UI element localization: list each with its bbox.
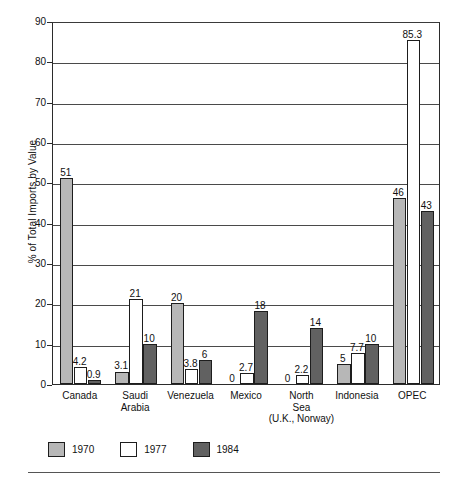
bar bbox=[88, 380, 102, 384]
y-axis-tick-label: 0 bbox=[18, 380, 46, 390]
bar-value-label: 2.7 bbox=[232, 362, 260, 373]
bar-value-label: 10 bbox=[135, 333, 163, 344]
legend-swatch-1984 bbox=[193, 442, 210, 457]
legend: 1970 1977 1984 bbox=[48, 442, 239, 457]
bar-value-label: 2.2 bbox=[288, 364, 316, 375]
bar-value-label: 6 bbox=[191, 349, 219, 360]
gridline bbox=[53, 225, 439, 226]
bar bbox=[254, 311, 268, 384]
bar-value-label: 20 bbox=[163, 292, 191, 303]
gridline bbox=[53, 63, 439, 64]
bar-value-label: 0.9 bbox=[80, 369, 108, 380]
bottom-divider bbox=[28, 472, 440, 473]
legend-item: 1977 bbox=[120, 442, 166, 457]
legend-label-1977: 1977 bbox=[144, 444, 166, 455]
bar-value-label: 18 bbox=[246, 300, 274, 311]
legend-swatch-1970 bbox=[48, 442, 65, 457]
y-axis-tick-label: 20 bbox=[18, 299, 46, 309]
bar bbox=[171, 303, 185, 384]
bar bbox=[115, 372, 129, 385]
bar-value-label: 0 bbox=[218, 373, 246, 384]
legend-item: 1970 bbox=[48, 442, 94, 457]
gridline bbox=[53, 184, 439, 185]
bar-value-label: 85.3 bbox=[399, 29, 427, 40]
bar bbox=[310, 328, 324, 384]
bar bbox=[393, 198, 407, 384]
bar bbox=[185, 369, 199, 384]
bar-value-label: 4.2 bbox=[66, 356, 94, 367]
y-axis-tick-label: 30 bbox=[18, 259, 46, 269]
bar bbox=[421, 211, 435, 384]
y-axis-tick-label: 90 bbox=[18, 17, 46, 27]
bar bbox=[60, 178, 74, 384]
gridline bbox=[53, 265, 439, 266]
x-axis-category-label: OPEC bbox=[371, 390, 454, 402]
y-axis-tick-label: 80 bbox=[18, 57, 46, 67]
legend-label-1970: 1970 bbox=[72, 444, 94, 455]
bar-value-label: 43 bbox=[413, 200, 441, 211]
bar bbox=[407, 40, 421, 384]
y-axis-tick-label: 10 bbox=[18, 340, 46, 350]
legend-swatch-1977 bbox=[120, 442, 137, 457]
bar bbox=[337, 364, 351, 384]
bar-chart-figure: % of Total Imports by Value 010203040506… bbox=[0, 0, 468, 484]
bar-value-label: 14 bbox=[302, 317, 330, 328]
plot-area bbox=[52, 22, 440, 385]
gridline bbox=[53, 144, 439, 145]
bar-value-label: 3.1 bbox=[107, 360, 135, 371]
y-axis-tick-mark bbox=[47, 385, 52, 386]
legend-label-1984: 1984 bbox=[217, 444, 239, 455]
y-axis-tick-label: 70 bbox=[18, 98, 46, 108]
gridline bbox=[53, 104, 439, 105]
y-axis-tick-label: 40 bbox=[18, 219, 46, 229]
bar bbox=[143, 344, 157, 384]
gridline bbox=[53, 346, 439, 347]
y-axis-tick-label: 50 bbox=[18, 178, 46, 188]
bar-value-label: 46 bbox=[385, 187, 413, 198]
legend-item: 1984 bbox=[193, 442, 239, 457]
y-axis-title: % of Total Imports by Value bbox=[27, 102, 38, 302]
bar-value-label: 21 bbox=[121, 288, 149, 299]
bar-value-label: 51 bbox=[52, 167, 80, 178]
y-axis-tick-label: 60 bbox=[18, 138, 46, 148]
bar-value-label: 10 bbox=[357, 333, 385, 344]
bar-value-label: 5 bbox=[329, 353, 357, 364]
